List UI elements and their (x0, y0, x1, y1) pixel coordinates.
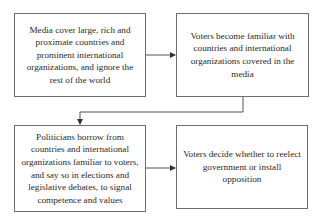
node-label: Voters become familiar with countries an… (183, 30, 302, 80)
arrow-voters-familiar-to-politicians (80, 97, 243, 124)
node-politicians-borrow: Politicians borrow from countries and in… (14, 125, 146, 212)
node-label: Politicians borrow from countries and in… (21, 131, 139, 207)
node-voters-familiar: Voters become familiar with countries an… (176, 13, 309, 97)
node-label: Voters decide whether to reelect governm… (183, 148, 301, 186)
node-media-coverage: Media cover large, rich and proximate co… (14, 13, 146, 97)
node-label: Media cover large, rich and proximate co… (21, 24, 139, 87)
node-voters-decide: Voters decide whether to reelect governm… (176, 125, 308, 209)
